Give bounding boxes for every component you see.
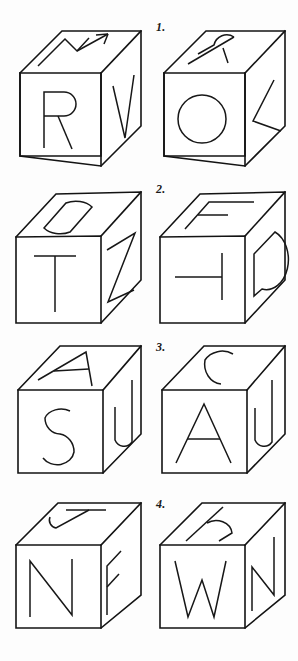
- puzzle-row-1: 1.: [0, 18, 298, 173]
- cube-4-left-drawing: [8, 495, 153, 650]
- cube-3-left-drawing: [8, 338, 153, 493]
- puzzle-row-2: 2.: [0, 180, 298, 335]
- question-number-1: 1.: [156, 20, 166, 35]
- cube-body: [20, 31, 141, 166]
- cube-3-right-drawing: [152, 338, 297, 493]
- cube-body: [18, 346, 141, 473]
- puzzle-row-3: 3.: [0, 338, 298, 493]
- question-number-4: 4.: [156, 497, 166, 512]
- puzzle-row-4: 4.: [0, 495, 298, 650]
- question-number-2: 2.: [156, 182, 166, 197]
- cube-1-left[interactable]: [8, 18, 153, 173]
- cube-3-right[interactable]: 3.: [152, 338, 297, 493]
- cube-4-left[interactable]: [8, 495, 153, 650]
- cube-1-left-drawing: [8, 18, 153, 173]
- cube-2-right[interactable]: 2.: [152, 180, 297, 335]
- cube-4-right[interactable]: 4.: [152, 495, 297, 650]
- cube-2-right-drawing: [152, 180, 297, 335]
- cube-1-right-drawing: [152, 18, 297, 173]
- cube-2-left-drawing: [8, 180, 153, 335]
- cube-2-left[interactable]: [8, 180, 153, 335]
- worksheet-sheet: 1.: [0, 0, 298, 661]
- cube-body: [16, 192, 141, 323]
- cube-1-right[interactable]: 1.: [152, 18, 297, 173]
- cube-pair-4: 4.: [0, 495, 298, 650]
- question-number-3: 3.: [156, 340, 166, 355]
- cube-pair-1: 1.: [0, 18, 298, 173]
- cube-3-left[interactable]: [8, 338, 153, 493]
- cube-4-right-drawing: [152, 495, 297, 650]
- cube-pair-2: 2.: [0, 180, 298, 335]
- cube-body: [16, 503, 141, 628]
- cube-pair-3: 3.: [0, 338, 298, 493]
